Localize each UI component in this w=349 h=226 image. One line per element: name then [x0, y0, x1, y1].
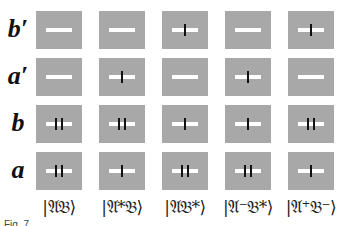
tick-mark-icon: [184, 24, 186, 36]
column-label-a-star-b: |𝔄*𝔅⟩: [92, 197, 152, 217]
tick-mark-icon: [244, 165, 246, 177]
column-label-a-b-star: |𝔄𝔅*⟩: [155, 197, 215, 217]
state-cell: [288, 11, 334, 49]
state-cell: [36, 11, 82, 49]
tick-mark-icon: [118, 118, 120, 130]
white-bar: [46, 169, 72, 173]
state-cell: [162, 152, 208, 190]
tick-mark-icon: [187, 165, 189, 177]
state-cell: [225, 105, 271, 143]
white-bar: [46, 122, 72, 126]
column-label-a-minus-b-star: |𝔄⁻𝔅*⟩: [218, 197, 278, 217]
tick-mark-icon: [61, 165, 63, 177]
state-cell: [288, 105, 334, 143]
state-cell: [288, 152, 334, 190]
white-bar: [46, 75, 72, 79]
tick-mark-icon: [184, 118, 186, 130]
state-cell: [162, 105, 208, 143]
figure-caption: Fig. 7 ...: [4, 219, 40, 226]
white-bar: [235, 28, 261, 32]
white-bar: [298, 122, 324, 126]
state-cell: [99, 152, 145, 190]
state-cell: [162, 58, 208, 96]
row-label-a: a: [4, 157, 32, 183]
column-label-a-plus-b-minus: |𝔄⁺𝔅⁻⟩: [281, 197, 341, 217]
tick-mark-icon: [307, 118, 309, 130]
state-cell: [225, 58, 271, 96]
tick-mark-icon: [313, 118, 315, 130]
state-cell: [162, 11, 208, 49]
state-cell: [99, 58, 145, 96]
white-bar: [109, 28, 135, 32]
state-cell: [36, 58, 82, 96]
tick-mark-icon: [61, 118, 63, 130]
column-label-ab: |𝔄𝔅⟩: [29, 197, 89, 217]
white-bar: [172, 75, 198, 79]
tick-mark-icon: [247, 71, 249, 83]
tick-mark-icon: [310, 24, 312, 36]
state-cell: [36, 152, 82, 190]
state-cell: [288, 58, 334, 96]
row-label-b: b: [4, 110, 32, 136]
tick-mark-icon: [310, 165, 312, 177]
white-bar: [109, 122, 135, 126]
row-label-a-prime: a′: [4, 63, 32, 89]
tick-mark-icon: [121, 71, 123, 83]
tick-mark-icon: [55, 118, 57, 130]
state-cell: [225, 11, 271, 49]
state-cell: [225, 152, 271, 190]
white-bar: [298, 75, 324, 79]
tick-mark-icon: [124, 118, 126, 130]
state-cell: [99, 105, 145, 143]
tick-mark-icon: [250, 165, 252, 177]
state-cell: [36, 105, 82, 143]
tick-mark-icon: [121, 165, 123, 177]
row-label-b-prime: b′: [4, 16, 32, 42]
state-cell: [99, 11, 145, 49]
tick-mark-icon: [247, 118, 249, 130]
white-bar: [172, 169, 198, 173]
white-bar: [235, 169, 261, 173]
tick-mark-icon: [55, 165, 57, 177]
white-bar: [46, 28, 72, 32]
tick-mark-icon: [181, 165, 183, 177]
